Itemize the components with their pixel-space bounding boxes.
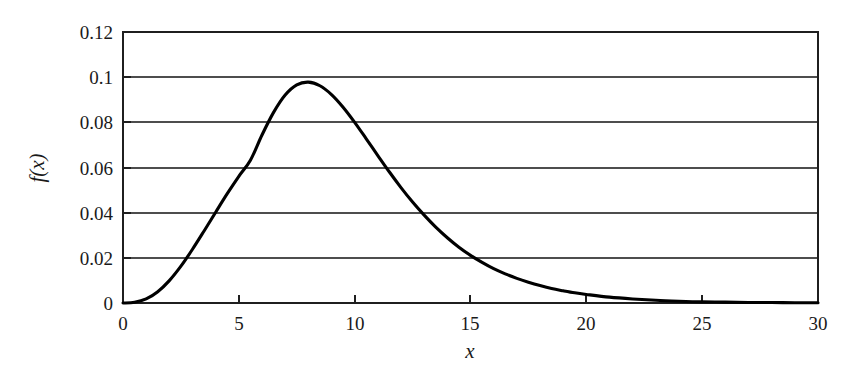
y-tick-label-0.02: 0.02 [80, 248, 113, 269]
chart-figure: 0 0.02 0.04 0.06 0.08 0.1 0.12 0 5 10 15… [0, 0, 858, 368]
data-curve-fx [123, 82, 818, 303]
x-tick-label-15: 15 [461, 313, 480, 334]
x-tick-label-0: 0 [118, 313, 128, 334]
y-tick-labels: 0 0.02 0.04 0.06 0.08 0.1 0.12 [80, 22, 114, 314]
x-tick-labels: 0 5 10 15 20 25 30 [118, 313, 827, 334]
y-tick-label-0.08: 0.08 [80, 112, 113, 133]
y-tick-label-0.12: 0.12 [80, 22, 113, 43]
x-tick-label-5: 5 [234, 313, 244, 334]
x-tick-label-20: 20 [577, 313, 596, 334]
y-tickmarks [123, 32, 131, 303]
x-axis-title: x [464, 339, 475, 363]
y-tick-label-0.1: 0.1 [89, 67, 113, 88]
y-tick-label-0: 0 [104, 293, 114, 314]
gridlines [123, 77, 818, 258]
x-tick-label-30: 30 [809, 313, 828, 334]
y-tick-label-0.04: 0.04 [80, 203, 114, 224]
y-axis-title: f(x) [25, 153, 49, 182]
plot-svg: 0 0.02 0.04 0.06 0.08 0.1 0.12 0 5 10 15… [0, 0, 858, 368]
x-tick-label-10: 10 [346, 313, 365, 334]
y-tick-label-0.06: 0.06 [80, 158, 113, 179]
x-tick-label-25: 25 [693, 313, 712, 334]
